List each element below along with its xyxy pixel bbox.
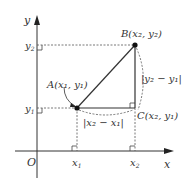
- point-b-label: B(x₂, y₂): [120, 28, 162, 39]
- coordinate-diagram: y x O y2 y1 x1 x2 A(x₁, y₁) B(x₂, y₂) C(…: [0, 0, 193, 184]
- point-b: [132, 42, 137, 47]
- tick-y1: y1: [24, 103, 34, 115]
- tick-y2: y2: [24, 40, 35, 52]
- point-c-label: C(x₂, y₁): [137, 110, 178, 121]
- y-axis-arrow-icon: [34, 15, 40, 25]
- side-ab: [77, 45, 135, 108]
- guide-lines: [37, 45, 143, 151]
- horizontal-side-label: |x₂ − x₁|: [83, 117, 124, 129]
- triangle-abc: [77, 45, 135, 108]
- tick-x2: x2: [130, 157, 140, 169]
- tick-x1: x1: [72, 157, 81, 169]
- y-axis-label: y: [23, 14, 31, 27]
- axes: [15, 15, 174, 178]
- origin-label: O: [27, 156, 36, 169]
- vertical-side-label: |y₂ − y₁|: [141, 73, 182, 85]
- x-axis-arrow-icon: [164, 148, 174, 154]
- x-axis-label: x: [164, 158, 171, 171]
- point-a: [74, 105, 79, 110]
- point-a-label: A(x₁, y₁): [46, 79, 88, 90]
